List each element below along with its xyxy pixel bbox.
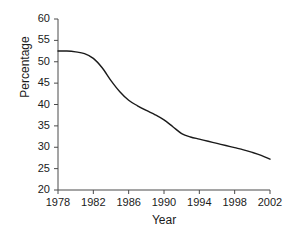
x-tick-label: 1978 <box>40 197 76 208</box>
x-tick-label: 1982 <box>75 197 111 208</box>
x-tick-label: 1990 <box>146 197 182 208</box>
y-tick-label: 30 <box>18 141 50 152</box>
x-tick-label: 1994 <box>181 197 217 208</box>
x-axis-title: Year <box>58 213 270 227</box>
line-chart: 202530354045505560 197819821986199019941… <box>0 0 287 233</box>
x-tick-label: 1998 <box>217 197 253 208</box>
axis-lines <box>58 19 270 190</box>
x-tick-label: 2002 <box>252 197 287 208</box>
y-axis-title: Percentage <box>18 22 32 112</box>
data-series-line <box>58 51 270 159</box>
y-tick-label: 35 <box>18 120 50 131</box>
y-axis-ticks <box>54 19 58 190</box>
y-tick-label: 20 <box>18 184 50 195</box>
y-tick-label: 25 <box>18 163 50 174</box>
x-axis-ticks <box>58 190 270 194</box>
x-tick-label: 1986 <box>111 197 147 208</box>
